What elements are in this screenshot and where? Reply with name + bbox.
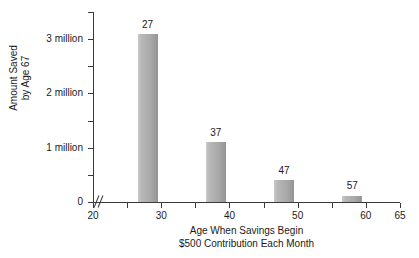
x-tick-2 <box>161 203 162 208</box>
bar-label-47: 47 <box>278 166 289 176</box>
bar-label-57: 57 <box>347 181 358 191</box>
bar-57 <box>342 196 362 203</box>
y-tick-5 <box>88 66 93 67</box>
x-tick-5 <box>264 203 265 208</box>
x-tick-label-4: 40 <box>224 211 235 221</box>
bar-chart-figure: 01 million2 million3 million 20304050606… <box>0 0 419 258</box>
y-tick-7 <box>88 12 93 13</box>
y-tick-6 <box>88 39 93 40</box>
x-tick-label-6: 50 <box>292 211 303 221</box>
bar-27 <box>138 34 158 202</box>
y-axis-line <box>93 12 94 203</box>
x-tick-1 <box>127 203 128 208</box>
x-tick-label-8: 60 <box>360 211 371 221</box>
x-tick-label-9: 65 <box>394 211 405 221</box>
plot-area <box>93 12 400 203</box>
y-tick-4 <box>88 93 93 94</box>
x-tick-8 <box>366 203 367 208</box>
x-axis-title: Age When Savings Begin $500 Contribution… <box>93 224 400 250</box>
bar-47 <box>274 180 294 202</box>
bar-label-27: 27 <box>142 20 153 30</box>
x-axis-line <box>93 202 400 203</box>
x-tick-label-2: 30 <box>156 211 167 221</box>
y-tick-1 <box>88 175 93 176</box>
y-tick-2 <box>88 148 93 149</box>
bar-label-37: 37 <box>210 128 221 138</box>
x-tick-7 <box>332 203 333 208</box>
y-tick-label-2: 1 million <box>0 143 83 153</box>
x-tick-3 <box>195 203 196 208</box>
y-tick-label-0: 0 <box>0 197 83 207</box>
x-tick-6 <box>298 203 299 208</box>
x-tick-9 <box>400 203 401 208</box>
x-tick-label-0: 20 <box>87 211 98 221</box>
axis-break-icon <box>96 195 107 208</box>
y-axis-title: Amount Saved by Age 67 <box>8 18 32 138</box>
x-tick-4 <box>229 203 230 208</box>
bar-37 <box>206 142 226 202</box>
y-tick-3 <box>88 121 93 122</box>
